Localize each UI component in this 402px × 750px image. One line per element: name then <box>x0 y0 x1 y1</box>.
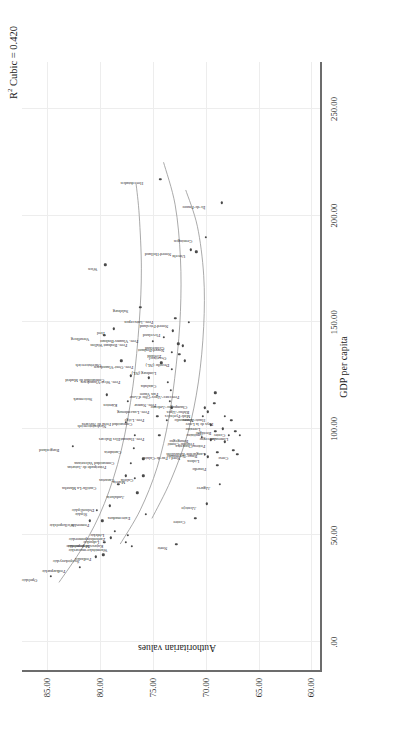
data-point-label: Galicia <box>121 478 133 482</box>
data-point-label: Prov. Brabant Wallon <box>90 343 127 347</box>
y-tick-label: 70.00 <box>201 678 211 714</box>
data-point-label: Prov. West-Vlaanderen <box>80 380 120 384</box>
plot-area: OpolskiePodkarpackieŚwiętokrzyskieWielko… <box>22 62 322 672</box>
data-point-label: Flevoland <box>143 333 160 337</box>
data-point-label: Castilla-La Mancha <box>62 486 96 490</box>
y-axis-line <box>22 670 322 672</box>
data-point-label: Illes Balears <box>99 437 120 441</box>
data-point-label: Podlaskie <box>75 557 92 561</box>
x-axis-title: GDP per capita <box>338 62 349 672</box>
data-point-label: Prov. Hainaut <box>121 437 145 441</box>
data-point-label: Groningen <box>174 239 192 243</box>
data-point-label: Midi-Pyrénées <box>165 414 190 418</box>
data-point-label: Noord-Holland <box>145 252 171 256</box>
r-squared-annotation: R2 Cubic = 0.420 <box>6 26 19 99</box>
data-point-label: Centro <box>174 520 186 524</box>
data-point-label: Lorraine <box>185 427 200 431</box>
data-point-label: Steiermark <box>73 397 92 401</box>
data-point-label: Picardie <box>192 467 206 471</box>
r-squared-value: Cubic = 0.420 <box>8 26 19 89</box>
data-point-label: Vorarlberg <box>71 337 89 341</box>
data-point-label: Utrecht <box>173 254 186 258</box>
data-point-label: Nord - Pas-de-Calais <box>144 456 180 460</box>
data-point-label: Prov. Luxembourg <box>117 410 149 414</box>
y-axis-title: Authoritarian values <box>57 643 297 653</box>
y-tick-label: 75.00 <box>148 678 158 714</box>
data-point-label: Norte <box>158 546 168 550</box>
data-point-label: Overijssel <box>149 356 166 360</box>
data-point-label: Drenthe (NL) <box>145 363 169 367</box>
data-point-label: Centre <box>214 433 225 437</box>
r-squared-symbol: R <box>8 92 19 99</box>
data-point-label: Pomorskie <box>71 523 89 527</box>
r-squared-exponent: 2 <box>6 89 14 93</box>
data-point-label: Kärnten <box>103 403 117 407</box>
data-point-label: Hovedstaden <box>121 181 143 185</box>
y-tick-label: 60.00 <box>306 678 316 714</box>
y-tick-label: 85.00 <box>42 678 52 714</box>
data-point-label: Extremadura <box>108 516 130 520</box>
rotated-figure-wrapper: R2 Cubic = 0.420 OpolskiePodkarpackieŚwi… <box>0 0 402 750</box>
data-point-label: Comunidad Valenciana <box>75 461 115 465</box>
data-point-label: Île-de-France <box>182 205 205 209</box>
data-point-label: Corse <box>219 456 229 460</box>
cubic-fit-curves <box>22 62 322 672</box>
data-point-label: Algarve <box>196 486 210 490</box>
data-point-label: Prov. Oost-Vlaanderen <box>94 365 133 369</box>
data-point-label: Limburg (NL) <box>132 371 157 375</box>
data-point-label: Franche-Comté <box>167 442 194 446</box>
data-point-label: Opolskie <box>21 578 37 582</box>
data-point-label: Cataluña <box>141 384 156 388</box>
data-point-label: Tirol <box>97 331 105 335</box>
y-tick-label: 65.00 <box>254 678 264 714</box>
data-point-label: Canarias <box>99 478 114 482</box>
data-point-label: Champagne-Ardenne <box>151 405 188 409</box>
y-tick-label: 80.00 <box>95 678 105 714</box>
data-point-label: Salzburg <box>113 309 128 313</box>
data-point-label: Noord-Friesland <box>140 324 168 328</box>
data-point-label: Andalucía <box>107 495 125 499</box>
data-point-label: Wien <box>88 267 97 271</box>
x-axis-line <box>320 62 322 672</box>
data-point-label: Dolnośląskie <box>71 508 93 512</box>
data-point-label: Podkarpackie <box>42 570 65 574</box>
data-point-label: Warmińsko-mazurskie <box>68 548 107 552</box>
scatter-plot-figure: R2 Cubic = 0.420 OpolskiePodkarpackieŚwi… <box>0 0 402 750</box>
data-point-label: Zachodniopomorskie <box>68 538 105 542</box>
data-point-label: Provence-Alpes-Côte d'Azur <box>130 395 180 399</box>
data-point-label: Noord-Brabant <box>138 348 164 352</box>
data-point-label: Cantabria <box>104 450 121 454</box>
data-point-label: Comunidad Foral de Navarra <box>82 422 132 426</box>
data-point-label: Alentejo <box>181 506 196 510</box>
data-point-label: Burgenland <box>39 448 59 452</box>
